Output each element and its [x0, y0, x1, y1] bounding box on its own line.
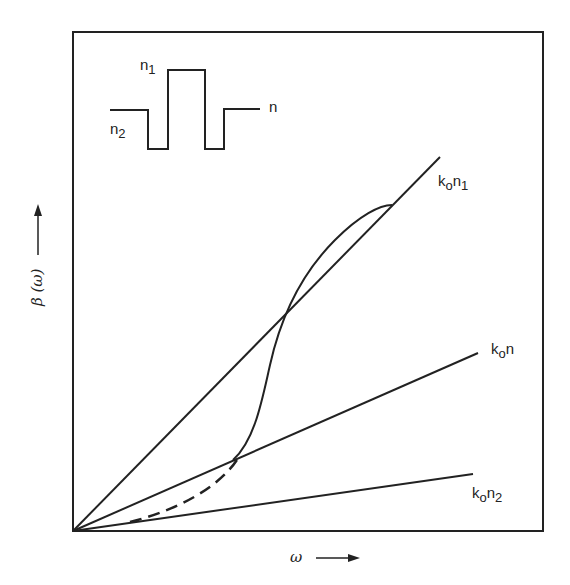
y-axis-label: β (ω)	[28, 269, 46, 306]
line-k0n1	[73, 157, 440, 531]
label-k0n1: kon1	[438, 172, 468, 193]
x-axis-label: ω	[290, 548, 302, 566]
index-profile	[110, 70, 260, 149]
x-axis-arrow-icon	[316, 554, 360, 562]
label-k0n2: kon2	[472, 484, 502, 505]
label-k0n: kon	[491, 340, 514, 361]
label-n-cladding: n	[269, 98, 277, 115]
plot-frame	[73, 32, 543, 531]
y-axis-arrow-icon	[34, 204, 42, 255]
label-n2: n2	[110, 120, 126, 141]
line-k0n	[73, 353, 478, 531]
mode-curve-solid	[233, 205, 392, 460]
label-n1: n1	[140, 56, 156, 77]
